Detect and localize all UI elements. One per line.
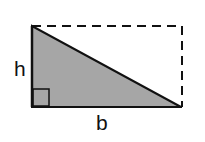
base-label: b — [96, 111, 108, 134]
right-triangle — [32, 26, 181, 107]
height-label: h — [14, 57, 26, 80]
triangle-area-diagram: h b — [0, 0, 205, 142]
